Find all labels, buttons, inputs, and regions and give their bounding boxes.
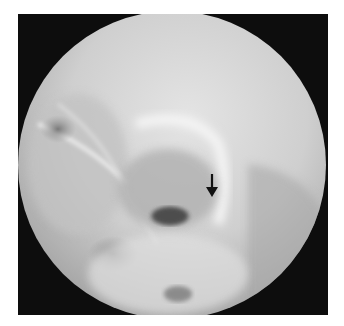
- radiograph-frame: [18, 14, 328, 315]
- arrow-down-icon: [206, 174, 218, 198]
- radiograph-image: [18, 14, 328, 315]
